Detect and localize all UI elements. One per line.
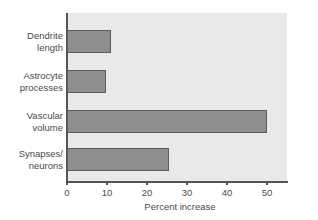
category-label-line: Synapses/ xyxy=(19,148,63,160)
x-axis-tick xyxy=(266,181,268,185)
x-axis-tick-label: 40 xyxy=(222,187,233,198)
bar-vascular-volume[interactable] xyxy=(67,110,267,133)
x-axis-tick-label: 0 xyxy=(64,187,69,198)
category-label-line: processes xyxy=(20,82,63,94)
category-label-astrocyte-processes: Astrocyte processes xyxy=(20,70,63,93)
x-axis-tick-label: 50 xyxy=(262,187,273,198)
x-axis-line xyxy=(66,181,288,183)
x-axis-tick-label: 20 xyxy=(142,187,153,198)
bar-astrocyte-processes[interactable] xyxy=(67,70,106,93)
x-axis-title-text: Percent increase xyxy=(144,201,215,212)
x-axis-tick xyxy=(186,181,188,185)
bar-synapses-neurons[interactable] xyxy=(67,148,169,171)
bar-chart: Dendrite length Astrocyte processes Vasc… xyxy=(0,0,318,220)
x-axis-tick xyxy=(66,181,68,185)
x-axis-tick-label: 10 xyxy=(102,187,113,198)
x-axis-tick xyxy=(226,181,228,185)
category-label-vascular-volume: Vascular volume xyxy=(27,110,63,133)
category-label-line: volume xyxy=(27,122,63,134)
category-label-dendrite-length: Dendrite length xyxy=(27,30,63,53)
category-label-line: neurons xyxy=(19,160,63,172)
x-axis-tick xyxy=(146,181,148,185)
x-axis-title: Percent increase xyxy=(0,201,318,212)
x-axis-tick xyxy=(106,181,108,185)
bar-dendrite-length[interactable] xyxy=(67,30,111,53)
category-label-synapses-neurons: Synapses/ neurons xyxy=(19,148,63,171)
x-axis-tick-label: 30 xyxy=(182,187,193,198)
category-label-line: Vascular xyxy=(27,110,63,122)
category-label-line: Dendrite xyxy=(27,30,63,42)
category-label-line: length xyxy=(27,42,63,54)
category-label-line: Astrocyte xyxy=(20,70,63,82)
